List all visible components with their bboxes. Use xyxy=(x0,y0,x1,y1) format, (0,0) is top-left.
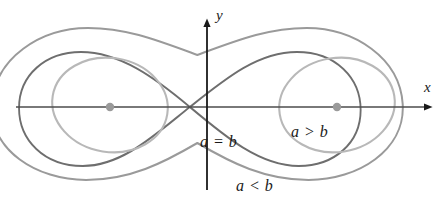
left-center-point xyxy=(106,103,114,111)
y-axis-label: y xyxy=(216,8,223,23)
annotation-a-greater-than-b: a > b xyxy=(291,124,328,140)
figure-container: x y a = b a > b a < b xyxy=(0,0,448,209)
annotation-a-less-than-b: a < b xyxy=(236,178,273,194)
annotation-a-equals-b: a = b xyxy=(200,134,237,150)
phase-portrait-plot xyxy=(0,0,448,209)
x-axis-label: x xyxy=(424,80,431,95)
outer-curve-a-lt-b xyxy=(0,28,403,180)
right-center-point xyxy=(333,103,341,111)
